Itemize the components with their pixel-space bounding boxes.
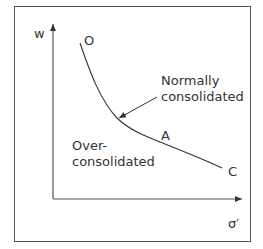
over-consolidated-label-line2: consolidated (72, 154, 155, 169)
y-axis-label: w (34, 26, 45, 41)
normally-consolidated-label-line1: Normally (161, 73, 219, 88)
normally-consolidated-label-line2: consolidated (161, 89, 244, 104)
point-a-label: A (161, 128, 170, 143)
point-c-label: C (228, 164, 237, 179)
over-consolidated-label-line1: Over- (72, 138, 107, 153)
normally-consolidated-arrow (119, 97, 157, 118)
x-axis-label: σ′ (228, 216, 239, 231)
point-o-label: O (84, 33, 94, 48)
